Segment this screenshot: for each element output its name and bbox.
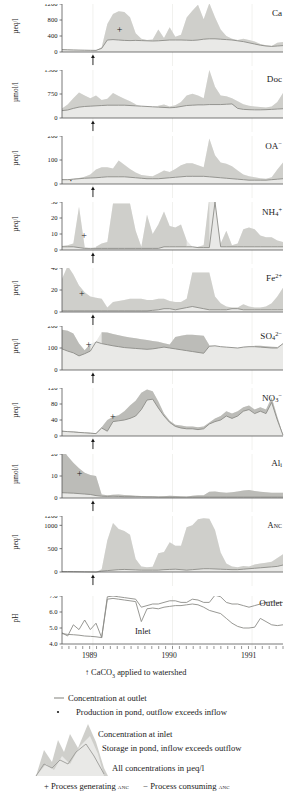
y-tick-label: 0 (54, 114, 58, 121)
legend-minus-anc: anc (219, 782, 230, 791)
panel-title-text: SO (260, 331, 272, 341)
panel-title-subscript: i (280, 461, 282, 468)
panel-title-doc: Doc (267, 74, 282, 84)
y-tick-label: 30 (51, 202, 58, 205)
legend-label-production: Production in pond, outflow exceeds infl… (76, 707, 227, 717)
y-tick-label: 1200 (44, 4, 58, 7)
y-tick-label: 80 (51, 400, 58, 407)
lime-application-arrow-icon (91, 501, 95, 512)
y-axis-label-no3: µeq/l (12, 388, 20, 432)
y-tick-label: 100 (48, 344, 59, 351)
y-tick-label: 20 (51, 286, 58, 293)
process-marker-plus: + (117, 24, 123, 35)
y-tick-label: 100 (48, 156, 59, 163)
y-tick-label: 0 (54, 432, 58, 439)
panel-title-superscript: − (278, 140, 282, 147)
y-tick-label: 10 (51, 230, 58, 237)
legend-minus-text: Process consuming (150, 781, 218, 791)
panel-oa: 0100200·µeq/lOA− (0, 136, 294, 200)
y-tick-label: 400 (48, 32, 59, 39)
lime-application-arrow-icon (91, 55, 95, 66)
y-tick-label: 1000 (44, 522, 58, 529)
y-axis-label-ph: pH (12, 596, 20, 640)
panel-title-superscript: 2+ (275, 272, 282, 279)
panel-plot-ali: 01020+ (0, 454, 294, 514)
lime-application-arrow-icon (91, 253, 95, 264)
y-tick-label: 0 (54, 494, 58, 501)
legend-anc-row: + Process generating anc − Process consu… (44, 781, 230, 791)
legend-swatch-graphic (0, 690, 294, 793)
y-tick-label: 800 (48, 16, 59, 23)
panel-plot-nh4: 0102030+ (0, 202, 294, 266)
y-tick-label: 7.0 (49, 596, 58, 599)
panel-title-so4: SO42− (260, 330, 282, 341)
figure-legend: Concentration at outlet Production in po… (0, 690, 294, 793)
panel-title-anc: Anc (268, 520, 282, 530)
legend-plus-symbol: + (44, 781, 49, 791)
panel-so4: 0100200+µeq/lSO42− (0, 326, 294, 386)
x-axis-year-1989: 1989 (82, 651, 97, 660)
y-tick-label: 0 (54, 308, 58, 315)
panel-plot-ca: 04008001200+ (0, 4, 294, 68)
lime-application-arrow-icon (91, 575, 95, 586)
caption-caco3: CaCO (89, 668, 112, 677)
process-marker-plus: + (110, 411, 116, 422)
panel-plot-no3: 04080120+ (0, 388, 294, 452)
y-axis-label-oa: µeq/l (12, 136, 20, 180)
area-dark-storage (158, 70, 283, 110)
ph-inlet-label: Inlet (135, 626, 151, 636)
lime-application-arrow-icon (91, 373, 95, 384)
panel-plot-anc: 050010001200 (0, 516, 294, 588)
figure-panel-stack: 04008001200+µeq/lCa07501500µmol/lDoc0100… (0, 0, 294, 793)
area-dark-storage (62, 207, 85, 249)
lime-application-arrow-icon (91, 439, 95, 450)
panel-title-text: Outlet (259, 598, 282, 608)
panel-title-ph: Outlet (259, 598, 282, 608)
x-axis-year-1990: 1990 (162, 651, 177, 660)
y-tick-label: 0 (54, 366, 58, 373)
panel-anc: 050010001200µeq/lAnc (0, 516, 294, 588)
y-tick-label: 0 (54, 180, 58, 187)
panel-title-text: Fe (266, 273, 275, 283)
y-tick-label: 10 (51, 472, 58, 479)
y-tick-label: 40 (51, 416, 58, 423)
panel-title-text: Al (271, 458, 280, 468)
panel-title-ca: Ca (272, 8, 282, 18)
lime-application-arrow-icon (91, 315, 95, 326)
y-tick-label: 120 (48, 388, 59, 391)
area-dark-storage (221, 228, 283, 247)
legend-label-units: All concentrations in µeq/l (112, 763, 204, 773)
y-axis-label-ca: µeq/l (12, 4, 20, 48)
panel-plot-so4: 0100200+ (0, 326, 294, 386)
process-marker-plus: + (77, 468, 83, 479)
legend-plus-text: Process generating (51, 781, 118, 791)
process-marker-plus: + (79, 288, 85, 299)
panel-fe2: 02040+µeq/lFe2+ (0, 268, 294, 328)
panel-plot-oa: 0100200· (0, 136, 294, 200)
panel-title-superscript: 2− (275, 330, 282, 337)
lime-application-caption: ↑ CaCO3 applied to watershed (85, 668, 186, 679)
y-axis-label-anc: µeq/l (12, 520, 20, 564)
area-dark-storage (96, 204, 187, 249)
area-dark-storage (198, 202, 209, 248)
legend-label-outlet-line: Concentration at outlet (68, 693, 147, 703)
y-tick-label: 1200 (44, 516, 58, 519)
panel-title-oa: OA− (265, 140, 282, 151)
y-axis-label-fe2: µeq/l (12, 266, 20, 310)
y-tick-label: 6.0 (49, 608, 58, 615)
panel-no3: 04080120+µeq/lNO3− (0, 388, 294, 452)
y-tick-label: 750 (48, 90, 59, 97)
legend-minus-symbol: − (143, 781, 148, 791)
legend-label-inlet-line: Concentration at inlet (98, 729, 172, 739)
panel-plot-doc: 07501500 (0, 70, 294, 134)
y-tick-label: 200 (48, 136, 59, 139)
y-tick-label: 20 (51, 454, 58, 457)
panel-plot-fe2: 02040+ (0, 268, 294, 328)
process-marker-plus: + (81, 230, 87, 241)
panel-title-superscript: + (278, 206, 282, 213)
y-axis-label-doc: µmol/l (12, 70, 20, 114)
y-axis-label-nh4: µeq/l (12, 202, 20, 246)
panel-title-fe2: Fe2+ (266, 272, 282, 283)
panel-doc: 07501500µmol/lDoc (0, 70, 294, 134)
y-tick-label: 20 (51, 214, 58, 221)
